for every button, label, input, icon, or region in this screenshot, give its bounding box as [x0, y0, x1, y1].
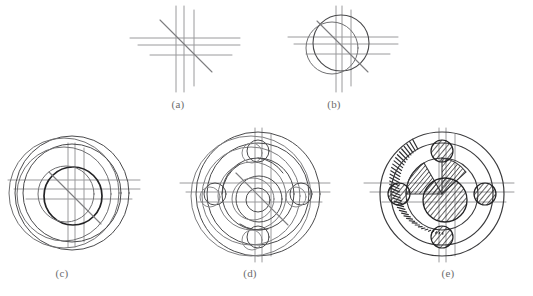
panel-caption-a: (a): [158, 98, 198, 110]
construction-sequence-svg: [0, 0, 533, 296]
panel-caption-d: (d): [230, 267, 270, 279]
panel-c-rim-and-bore: [8, 136, 140, 250]
panel-e-sectioned-view: [364, 128, 514, 262]
panel-caption-b: (b): [314, 98, 354, 110]
panel-a-construction-lines: [130, 6, 240, 92]
panel-b-offset-circles: [288, 6, 398, 92]
panel-a-diagonal: [160, 20, 212, 72]
technical-drawing-figure: (a) (b) (c) (d) (e): [0, 0, 533, 296]
panel-caption-c: (c): [42, 267, 82, 279]
panel-caption-e: (e): [428, 267, 468, 279]
panel-d-bolt-circle-layout: [180, 128, 330, 262]
